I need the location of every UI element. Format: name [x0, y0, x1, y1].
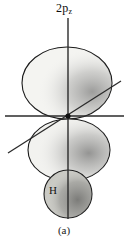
orbital-figure: 2pz H (a) — [0, 0, 128, 247]
nodal-origin-point — [65, 113, 70, 118]
panel-caption: (a) — [0, 224, 128, 237]
orbital-diagram-canvas — [0, 0, 128, 247]
hydrogen-atom-label: H — [49, 184, 57, 196]
orbital-label-main: 2p — [56, 1, 68, 15]
orbital-label-subscript: z — [68, 7, 72, 16]
orbital-label: 2pz — [0, 1, 128, 19]
